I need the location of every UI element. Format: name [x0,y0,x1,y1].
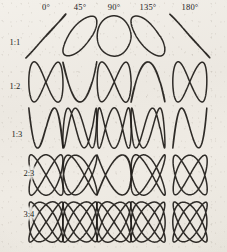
lissajous-cell-1-1-0deg [26,14,66,58]
lissajous-cell-1-2-45deg [63,62,97,102]
row-label-3-4: 3:4 [22,208,36,219]
row-label-1-3: 1:3 [10,128,24,139]
lissajous-cell-3-4-180deg [173,202,207,242]
lissajous-cell-1-2-0deg [29,62,63,102]
lissajous-cell-1-3-45deg [63,108,97,148]
lissajous-cell-2-3-90deg [97,155,131,195]
column-header-180deg: 180° [170,2,210,12]
lissajous-cell-2-3-135deg [131,155,165,195]
lissajous-cell-1-3-0deg [29,108,63,148]
lissajous-cell-3-4-0deg [29,202,63,242]
lissajous-cell-1-1-45deg [63,16,97,56]
lissajous-cell-1-3-135deg [131,108,165,148]
lissajous-cell-1-2-180deg [173,62,207,102]
lissajous-cell-3-4-135deg [131,202,165,242]
row-label-2-3: 2:3 [22,167,36,178]
lissajous-cell-1-3-90deg [97,108,131,148]
lissajous-cell-1-2-135deg [131,62,165,102]
lissajous-cell-3-4-90deg [97,202,131,242]
row-label-1-1: 1:1 [8,36,22,47]
column-header-135deg: 135° [128,2,168,12]
lissajous-cell-1-2-90deg [97,62,131,102]
lissajous-cell-1-1-135deg [131,16,165,56]
lissajous-curves [26,14,210,242]
row-label-1-2: 1:2 [8,80,22,91]
lissajous-cell-1-1-90deg [97,16,131,56]
lissajous-cell-1-1-180deg [170,14,210,58]
lissajous-cell-2-3-180deg [173,155,207,195]
lissajous-cell-3-4-45deg [63,202,97,242]
lissajous-cell-2-3-45deg [63,155,97,195]
lissajous-cell-1-3-180deg [173,108,207,148]
